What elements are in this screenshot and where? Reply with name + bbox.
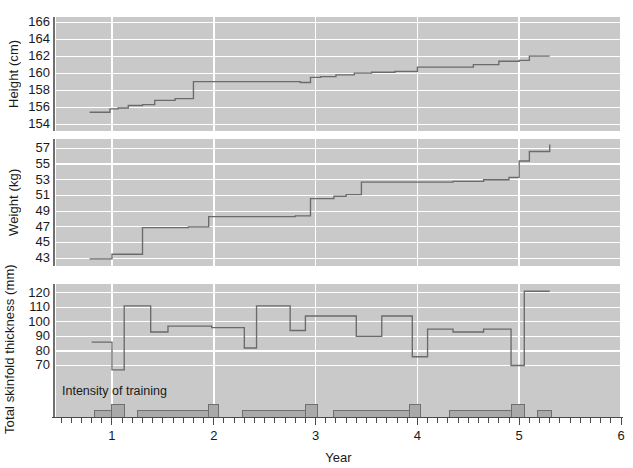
y-tick-skinfold-120: 120: [28, 286, 50, 299]
y-tick-skinfold-100: 100: [28, 315, 50, 328]
y-tick-weight-55: 55: [36, 157, 50, 170]
x-tick-6: 6: [601, 429, 633, 442]
y-tick-skinfold-90: 90: [36, 329, 50, 342]
intensity-of-training-label: Intensity of training: [62, 384, 167, 398]
y-tick-height-162: 162: [28, 49, 50, 62]
y-axis-label-skinfold: Total skinfold thickness (mm): [2, 284, 17, 434]
y-tick-height-164: 164: [28, 32, 50, 45]
y-tick-height-154: 154: [28, 117, 50, 130]
y-tick-height-160: 160: [28, 66, 50, 79]
y-axis-line-skinfold: [53, 284, 55, 418]
x-tick-4: 4: [397, 429, 437, 442]
x-tick-1: 1: [92, 429, 132, 442]
y-tick-weight-57: 57: [36, 141, 50, 154]
y-tick-height-166: 166: [28, 15, 50, 28]
x-axis: [52, 417, 623, 429]
y-tick-height-158: 158: [28, 83, 50, 96]
growth-chart-figure: Height (cm) 154156158160162164166 Weight…: [0, 0, 633, 468]
y-tick-skinfold-110: 110: [29, 300, 50, 313]
panel-height: [56, 17, 621, 131]
y-tick-skinfold-80: 80: [36, 344, 50, 357]
y-axis-line-weight: [53, 139, 55, 266]
x-tick-2: 2: [194, 429, 234, 442]
x-axis-title: Year: [56, 450, 621, 465]
y-axis-line-height: [53, 17, 55, 131]
y-axis-label-height: Height (cm): [6, 17, 21, 131]
y-tick-weight-47: 47: [36, 220, 50, 233]
y-tick-height-156: 156: [28, 100, 50, 113]
y-axis-label-weight: Weight (kg): [6, 139, 21, 266]
x-tick-5: 5: [499, 429, 539, 442]
y-tick-weight-45: 45: [36, 235, 50, 248]
y-tick-weight-43: 43: [36, 251, 50, 264]
y-tick-weight-51: 51: [36, 188, 50, 201]
y-tick-skinfold-70: 70: [36, 358, 50, 371]
x-tick-3: 3: [296, 429, 336, 442]
y-tick-weight-49: 49: [36, 204, 50, 217]
panel-weight: [56, 139, 621, 266]
y-tick-weight-53: 53: [36, 173, 50, 186]
